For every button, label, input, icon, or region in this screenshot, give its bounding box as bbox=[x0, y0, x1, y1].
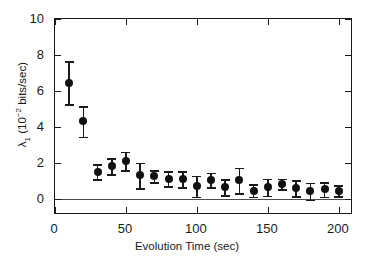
error-bar-cap-lower bbox=[306, 200, 315, 202]
data-marker bbox=[165, 175, 173, 183]
data-marker bbox=[108, 162, 116, 170]
y-axis-tick bbox=[345, 199, 351, 200]
error-bar-cap-upper bbox=[221, 179, 230, 181]
error-bar-cap-upper bbox=[306, 183, 315, 185]
data-marker bbox=[193, 182, 201, 190]
y-axis-units-prefix: (10 bbox=[16, 117, 28, 137]
y-axis-tick bbox=[55, 163, 61, 164]
y-axis-subscript: 1 bbox=[23, 137, 32, 141]
y-axis-tick bbox=[345, 163, 351, 164]
y-tick-label: 10 bbox=[4, 12, 44, 25]
error-bar-cap-lower bbox=[121, 170, 130, 172]
data-marker bbox=[250, 187, 258, 195]
data-marker bbox=[306, 187, 314, 195]
error-bar-cap-lower bbox=[150, 182, 159, 184]
error-bar-cap-lower bbox=[249, 197, 258, 199]
error-bar-cap-upper bbox=[93, 164, 102, 166]
error-bar-cap-lower bbox=[65, 104, 74, 106]
error-bar-cap-lower bbox=[178, 187, 187, 189]
data-marker bbox=[150, 172, 158, 180]
data-marker bbox=[321, 185, 329, 193]
data-marker bbox=[278, 180, 286, 188]
y-axis-tick bbox=[55, 91, 61, 92]
y-axis-tick bbox=[55, 199, 61, 200]
error-bar-cap-upper bbox=[263, 179, 272, 181]
error-bar-cap-lower bbox=[79, 137, 88, 139]
x-axis-tick bbox=[339, 19, 340, 25]
x-axis-tick bbox=[197, 207, 198, 213]
plot-area bbox=[54, 18, 352, 214]
x-axis-tick bbox=[55, 19, 56, 25]
x-axis-tick bbox=[268, 207, 269, 213]
x-tick-label: 200 bbox=[313, 222, 363, 235]
y-axis-tick bbox=[345, 91, 351, 92]
error-bar-cap-lower bbox=[107, 174, 116, 176]
error-bar-cap-upper bbox=[121, 152, 130, 154]
error-bar-cap-lower bbox=[221, 195, 230, 197]
data-marker bbox=[235, 176, 243, 184]
error-bar-cap-upper bbox=[292, 180, 301, 182]
x-axis-tick bbox=[126, 19, 127, 25]
error-bar-cap-lower bbox=[235, 193, 244, 195]
error-bar-cap-lower bbox=[164, 186, 173, 188]
y-axis-tick bbox=[55, 127, 61, 128]
x-axis-title: Evolution Time (sec) bbox=[0, 240, 374, 252]
error-bar-cap-lower bbox=[93, 179, 102, 181]
error-bar-cap-upper bbox=[65, 61, 74, 63]
data-marker bbox=[179, 175, 187, 183]
data-marker bbox=[292, 184, 300, 192]
error-bar-cap-lower bbox=[136, 188, 145, 190]
data-marker bbox=[264, 183, 272, 191]
error-bar-cap-upper bbox=[207, 173, 216, 175]
error-bar-cap-upper bbox=[235, 168, 244, 170]
error-bar-cap-lower bbox=[320, 197, 329, 199]
error-bar-cap-upper bbox=[136, 163, 145, 165]
x-axis-tick bbox=[126, 207, 127, 213]
error-bar-cap-upper bbox=[178, 171, 187, 173]
data-marker bbox=[65, 79, 73, 87]
data-marker bbox=[221, 183, 229, 191]
x-axis-tick bbox=[197, 19, 198, 25]
error-bar-cap-lower bbox=[334, 196, 343, 198]
error-bar-cap-lower bbox=[192, 197, 201, 199]
y-axis-tick bbox=[345, 19, 351, 20]
data-marker bbox=[122, 157, 130, 165]
data-marker bbox=[136, 171, 144, 179]
x-tick-label: 50 bbox=[100, 222, 150, 235]
data-marker bbox=[335, 187, 343, 195]
x-tick-label: 0 bbox=[29, 222, 79, 235]
error-bar-cap-upper bbox=[164, 171, 173, 173]
y-axis-title: λ1 (10−2 bits/sec) bbox=[14, 30, 31, 180]
x-axis-tick bbox=[339, 207, 340, 213]
data-marker bbox=[207, 176, 215, 184]
error-bar-cap-upper bbox=[79, 106, 88, 108]
error-bar-cap-upper bbox=[192, 176, 201, 178]
x-axis-tick bbox=[55, 207, 56, 213]
y-axis-tick bbox=[345, 55, 351, 56]
x-tick-label: 150 bbox=[242, 222, 292, 235]
error-bar-cap-upper bbox=[107, 158, 116, 160]
figure-container: 0246810 050100150200 λ1 (10−2 bits/sec) … bbox=[0, 0, 374, 264]
error-bar-cap-upper bbox=[320, 182, 329, 184]
y-tick-label: 0 bbox=[4, 192, 44, 205]
x-axis-tick bbox=[268, 19, 269, 25]
data-marker bbox=[79, 117, 87, 125]
x-tick-label: 100 bbox=[171, 222, 221, 235]
error-bar-cap-upper bbox=[249, 184, 258, 186]
y-axis-units-suffix: bits/sec) bbox=[16, 62, 28, 108]
error-bar-cap-lower bbox=[278, 189, 287, 191]
y-axis-tick bbox=[55, 55, 61, 56]
y-axis-exponent: −2 bbox=[14, 108, 23, 117]
data-marker bbox=[94, 168, 102, 176]
y-axis-tick bbox=[345, 127, 351, 128]
error-bar-cap-lower bbox=[207, 187, 216, 189]
error-bar-cap-lower bbox=[292, 196, 301, 198]
y-axis-symbol: λ bbox=[16, 141, 28, 147]
error-bar-cap-lower bbox=[263, 196, 272, 198]
